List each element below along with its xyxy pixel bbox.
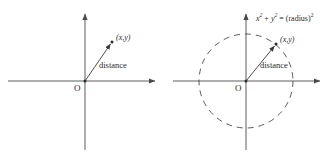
math-figure: (x,y) distance O (x,y) distance O x2 + y… xyxy=(0,0,332,159)
right-origin-label: O xyxy=(235,84,242,93)
right-distance-label: distance xyxy=(260,61,288,70)
left-point-dot xyxy=(111,41,114,44)
left-origin-dot xyxy=(84,80,87,83)
right-point-dot xyxy=(275,43,278,46)
equation-radius-exponent: 2 xyxy=(311,12,314,18)
right-origin-dot xyxy=(245,80,248,83)
left-panel-graphics xyxy=(8,14,155,150)
equation-plus-operator: + xyxy=(262,14,271,23)
left-origin-label: O xyxy=(74,84,81,93)
circle-equation-label: x2 + y2 = (radius)2 xyxy=(256,13,313,23)
equation-radius-term: (radius) xyxy=(286,14,311,23)
right-panel-graphics xyxy=(173,14,320,150)
figure-canvas xyxy=(0,0,332,159)
right-point-label: (x,y) xyxy=(280,36,294,44)
left-point-label: (x,y) xyxy=(116,34,130,42)
equation-equals-operator: = xyxy=(277,14,286,23)
left-distance-label: distance xyxy=(99,61,127,70)
